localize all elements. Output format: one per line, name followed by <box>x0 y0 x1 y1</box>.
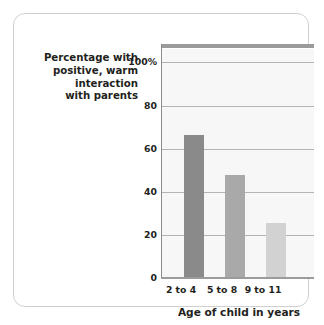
y-tick-label-40: 40 <box>113 186 157 197</box>
gridline-100 <box>161 62 314 63</box>
x-tick-label-9-to-11: 9 to 11 <box>233 284 293 295</box>
x-axis-title: Age of child in years <box>144 306 324 318</box>
bar-5-to-8 <box>225 175 245 278</box>
figure-card: Percentage with positive, warm interacti… <box>13 13 309 307</box>
gridline-80 <box>161 106 314 107</box>
plot-top-frame-inner <box>161 48 314 49</box>
y-tick-label-20: 20 <box>113 229 157 240</box>
x-axis-line <box>161 277 314 279</box>
y-axis-line <box>161 44 162 279</box>
bar-2-to-4 <box>184 135 204 278</box>
y-tick-label-60: 60 <box>113 143 157 154</box>
bar-9-to-11 <box>266 223 286 278</box>
y-tick-label-80: 80 <box>113 100 157 111</box>
plot-area <box>161 44 314 279</box>
y-tick-label-100: 100% <box>113 56 157 67</box>
y-tick-label-0: 0 <box>113 272 157 283</box>
